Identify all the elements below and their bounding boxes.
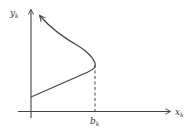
- diagram: yk xk bk: [0, 0, 192, 133]
- b-k-label: bk: [90, 116, 100, 127]
- y-axis-label: yk: [9, 8, 19, 19]
- curve: [31, 16, 95, 97]
- x-axis-label: xk: [175, 107, 184, 118]
